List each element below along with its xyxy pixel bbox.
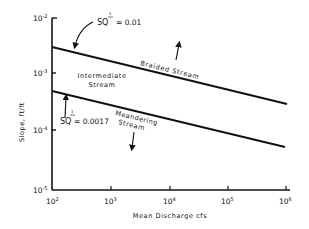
x-tick-label: 106 [279,196,292,206]
annotation-pointer-icon [65,97,66,118]
x-tick-label: 104 [163,196,176,206]
y-axis-title: Slope, ft/ft [18,102,26,142]
x-tick-label: 102 [46,196,59,206]
y-tick-label: 10-3 [33,68,48,78]
lower-equation-text: SQ [60,117,71,126]
annotation-pointer-icon [75,22,93,46]
upper-eq-exp-num: 1 [109,11,112,16]
upper-equation-annotation: SQ 1 = 0.01 [75,11,142,46]
axes [52,18,290,190]
intermediate-stream-label-line2: Stream [88,81,115,89]
x-axis-title: Mean Discharge cfs [133,212,207,220]
slope-discharge-chart: 10-2 10-3 10-4 10-5 102 103 104 105 106 … [0,0,309,229]
down-arrow-icon [132,132,134,148]
up-arrow-icon [176,44,179,60]
x-tick-label: 103 [104,196,117,206]
y-tick-labels: 10-2 10-3 10-4 10-5 [33,13,48,195]
upper-eq-value: = 0.01 [116,18,142,27]
y-tick-label: 10-5 [33,185,48,195]
lower-equation-annotation: SQ 1 = 0.0017 [60,97,109,126]
x-tick-label: 105 [221,196,234,206]
lower-eq-exp-num: 1 [71,109,74,114]
y-tick-label: 10-2 [33,13,48,23]
upper-equation-text: SQ [97,18,108,27]
x-tick-labels: 102 103 104 105 106 [46,196,292,206]
y-tick-label: 10-4 [33,125,48,135]
lower-eq-value: = 0.0017 [74,117,109,126]
intermediate-stream-label-line1: Intermediate [77,72,126,80]
